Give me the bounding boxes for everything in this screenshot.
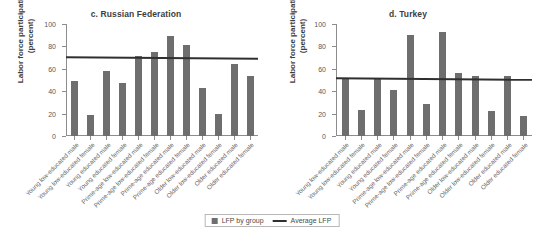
y-tick-label-80: 80	[48, 43, 56, 50]
y-tick-label-80: 80	[318, 43, 326, 50]
x-tick	[523, 136, 524, 140]
x-axis-category-label: Older low-educated female	[165, 141, 223, 199]
x-tick-cell	[337, 136, 353, 140]
x-tick-cell	[500, 136, 516, 140]
x-axis-category-label: Older low-educated female	[438, 141, 496, 199]
y-tick-20: 20	[332, 114, 336, 115]
x-label-cell: Young educated female	[115, 141, 131, 227]
panel-turkey: d. Turkey Labor force participation (per…	[272, 0, 544, 210]
bar	[71, 81, 78, 136]
legend-item-average-lfp: Average LFP	[273, 217, 332, 224]
x-tick-cell	[67, 136, 83, 140]
x-tick	[361, 136, 362, 140]
x-tick-cell	[451, 136, 467, 140]
x-label-cell: Prime-age low-educated male	[402, 141, 418, 227]
bar-cell	[147, 24, 163, 136]
bar	[358, 110, 365, 136]
x-tick-cell	[467, 136, 483, 140]
x-tick	[458, 136, 459, 140]
x-tick-row	[67, 136, 258, 140]
y-tick-label-20: 20	[48, 110, 56, 117]
bar	[423, 104, 430, 136]
bar-cell	[226, 24, 242, 136]
bar	[504, 76, 511, 136]
bar-cell	[163, 24, 179, 136]
x-axis-category-label: Older educated male	[466, 141, 512, 187]
x-axis-category-label: Prime-age low-educated female	[92, 141, 160, 209]
y-tick-label-40: 40	[48, 88, 56, 95]
x-axis-category-label: Older educated female	[479, 141, 529, 191]
x-label-cell: Young low-educated female	[353, 141, 369, 227]
bar	[167, 36, 174, 136]
x-tick-cell	[353, 136, 369, 140]
x-tick	[106, 136, 107, 140]
panel-russian-federation: c. Russian Federation Labor force partic…	[0, 0, 272, 210]
x-tick-cell	[402, 136, 418, 140]
x-axis-category-label: Older educated male	[193, 141, 239, 187]
x-tick	[410, 136, 411, 140]
x-tick	[393, 136, 394, 140]
x-tick	[234, 136, 235, 140]
x-tick	[426, 136, 427, 140]
x-tick-cell	[163, 136, 179, 140]
bar-cell	[194, 24, 210, 136]
x-label-cell: Young educated male	[99, 141, 115, 227]
x-tick-cell	[242, 136, 258, 140]
y-tick-80: 80	[62, 46, 66, 47]
bar	[215, 114, 222, 136]
x-tick-cell	[435, 136, 451, 140]
x-tick-cell	[83, 136, 99, 140]
bar	[247, 76, 254, 136]
y-tick-80: 80	[332, 46, 336, 47]
bar-cell	[115, 24, 131, 136]
x-label-cell: Prime-age educated male	[435, 141, 451, 227]
x-label-cell: Prime-age low-educated female	[418, 141, 434, 227]
bar	[374, 78, 381, 136]
bar	[119, 83, 126, 136]
bar	[87, 115, 94, 136]
bar	[472, 76, 479, 136]
x-tick-cell	[178, 136, 194, 140]
bar	[455, 73, 462, 136]
x-label-cell: Young low-educated male	[337, 141, 353, 227]
y-tick-label-60: 60	[48, 65, 56, 72]
y-tick-label-40: 40	[318, 88, 326, 95]
y-tick-label-100: 100	[314, 21, 326, 28]
x-label-cell: Older low-educated female	[483, 141, 499, 227]
bar	[199, 88, 206, 136]
x-label-cell: Older educated female	[516, 141, 532, 227]
x-tick-cell	[99, 136, 115, 140]
x-tick	[170, 136, 171, 140]
bar-cell	[418, 24, 434, 136]
bar	[439, 32, 446, 136]
x-tick	[154, 136, 155, 140]
x-tick-cell	[516, 136, 532, 140]
x-label-cell: Prime-age low-educated female	[147, 141, 163, 227]
bar	[135, 56, 142, 136]
bar-cell	[370, 24, 386, 136]
panel-title-russian-federation: c. Russian Federation	[0, 9, 272, 19]
y-tick-label-100: 100	[44, 21, 56, 28]
x-tick-cell	[194, 136, 210, 140]
legend-item-lfp-by-group: LFP by group	[212, 217, 264, 224]
bar-cell	[451, 24, 467, 136]
bar	[103, 71, 110, 136]
y-axis-title-russian-federation: Labor force participation (percent)	[16, 0, 36, 95]
x-tick	[138, 136, 139, 140]
bar	[407, 35, 414, 136]
x-axis-category-label: Young educated male	[335, 141, 383, 189]
bar-cell	[83, 24, 99, 136]
x-label-cell: Prime-age educated female	[178, 141, 194, 227]
x-tick-cell	[115, 136, 131, 140]
x-axis-category-label: Prime-age low-educated male	[351, 141, 415, 205]
legend-label-average-lfp: Average LFP	[291, 217, 332, 224]
y-tick-0: 0	[332, 136, 336, 137]
chart-legend: LFP by group Average LFP	[205, 214, 340, 227]
x-axis-category-label: Older low-educated male	[153, 141, 207, 195]
filled-square-icon	[212, 218, 218, 224]
y-tick-60: 60	[62, 69, 66, 70]
plot-area-turkey: 100 80 60 40 20 0	[336, 24, 532, 136]
x-axis-category-label: Prime-age educated female	[404, 141, 464, 201]
bar-cell	[131, 24, 147, 136]
figure-two-panel-lfp-chart: c. Russian Federation Labor force partic…	[0, 0, 544, 236]
